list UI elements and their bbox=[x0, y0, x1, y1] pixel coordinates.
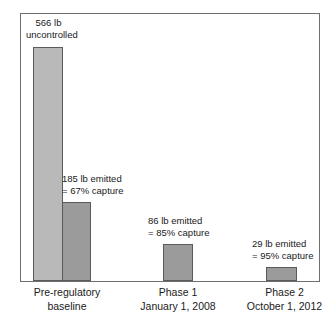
bar-chart-figure: 566 lb uncontrolled 185 lb emitted = 67%… bbox=[0, 0, 336, 320]
x-axis-label-line-2: baseline bbox=[12, 299, 122, 313]
bar-baseline-uncontrolled bbox=[33, 47, 63, 281]
annotation-line-2: uncontrolled bbox=[26, 29, 71, 41]
annotation-phase1-emitted: 86 lb emitted = 85% capture bbox=[148, 215, 210, 238]
annotation-line-2: = 95% capture bbox=[252, 250, 314, 262]
x-axis-label-line-1: Phase 2 bbox=[212, 285, 336, 299]
annotation-baseline-uncontrolled: 566 lb uncontrolled bbox=[26, 17, 71, 40]
annotation-baseline-emitted: 185 lb emitted = 67% capture bbox=[62, 173, 124, 196]
annotation-line-2: = 85% capture bbox=[148, 227, 210, 239]
bar-phase1-emitted bbox=[163, 244, 193, 281]
annotation-line-1: 185 lb emitted bbox=[62, 173, 124, 185]
bar-baseline-emitted bbox=[62, 202, 91, 281]
annotation-line-1: 29 lb emitted bbox=[252, 238, 314, 250]
annotation-line-1: 86 lb emitted bbox=[148, 215, 210, 227]
x-axis-label-line-2: October 1, 2012 bbox=[212, 299, 336, 313]
x-axis-label-line-1: Pre-regulatory bbox=[12, 285, 122, 299]
x-axis-label-pre-regulatory-baseline: Pre-regulatory baseline bbox=[12, 285, 122, 313]
annotation-line-1: 566 lb bbox=[26, 17, 71, 29]
annotation-phase2-emitted: 29 lb emitted = 95% capture bbox=[252, 238, 314, 261]
x-axis-labels: Pre-regulatory baseline Phase 1 January … bbox=[20, 285, 320, 318]
bar-phase2-emitted bbox=[266, 267, 297, 281]
x-axis-label-phase-2: Phase 2 October 1, 2012 bbox=[212, 285, 336, 313]
plot-area: 566 lb uncontrolled 185 lb emitted = 67%… bbox=[20, 13, 320, 282]
annotation-line-2: = 67% capture bbox=[62, 185, 124, 197]
